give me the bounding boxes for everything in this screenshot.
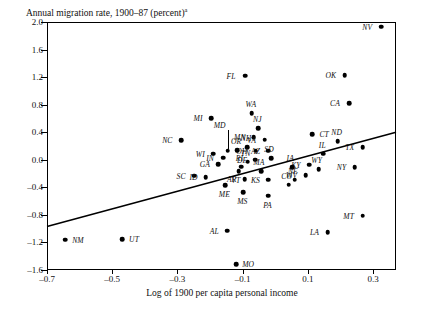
data-point-label-nh: NH	[241, 134, 252, 143]
data-point-wy	[316, 167, 321, 172]
data-point-id	[203, 175, 208, 180]
data-point-vt	[236, 169, 241, 174]
plot-area	[47, 22, 396, 270]
data-point-label-ut: UT	[129, 235, 139, 244]
data-point-fl	[243, 73, 248, 78]
x-axis-tick-label: –0.7	[27, 274, 67, 284]
data-point-label-ny: NY	[337, 163, 347, 172]
data-point-pa	[266, 193, 271, 198]
data-point-ms	[241, 190, 246, 195]
y-axis-tick-label: –1.2	[9, 237, 43, 247]
data-point-ut	[120, 237, 125, 242]
data-point-ct	[310, 132, 315, 137]
data-point-label-az: AZ	[251, 146, 260, 155]
x-axis-tick-label: –0.1	[223, 274, 263, 284]
data-point-nv	[379, 25, 384, 30]
chart-title-text: Annual migration rate, 1900–87 (percent)	[26, 8, 185, 18]
data-point-ca	[347, 101, 352, 106]
data-point-label-ks: KS	[251, 175, 260, 184]
x-axis-tick-mark	[243, 269, 244, 274]
data-point-in	[221, 155, 226, 160]
x-axis-tick-mark	[177, 269, 178, 274]
data-point-label-ok: OK	[325, 71, 336, 80]
data-point-nc	[179, 138, 184, 143]
y-axis-tick-label: –0.8	[9, 210, 43, 220]
y-axis-tick-label: 0.0	[9, 155, 43, 165]
data-point-label-sd: SD	[264, 145, 273, 154]
data-point-label-fl: FL	[226, 71, 235, 80]
data-point-label-me: ME	[219, 190, 230, 199]
data-point-tx	[360, 145, 365, 150]
x-axis-tick-label: –0.5	[92, 274, 132, 284]
data-point-label-nv: NV	[362, 22, 372, 31]
data-point-label-ct: CT	[319, 130, 329, 139]
data-point-label-sc: SC	[177, 171, 186, 180]
data-point-label-ca: CA	[330, 99, 340, 108]
data-point-ga	[216, 162, 221, 167]
data-point-ny	[352, 165, 357, 170]
data-point-ok	[342, 73, 347, 78]
y-axis-tick-label: 1.2	[9, 72, 43, 82]
data-point-label-wi: WI	[196, 149, 205, 158]
x-axis-tick-mark	[47, 269, 48, 274]
y-axis-tick-mark	[41, 77, 47, 78]
data-point-ri	[239, 164, 244, 169]
data-point-label-nj: NJ	[253, 115, 262, 124]
x-axis-tick-mark	[112, 269, 113, 274]
x-axis-tick-label: 0.3	[353, 274, 393, 284]
data-point-la	[325, 230, 330, 235]
data-point-or	[235, 148, 240, 153]
data-point-nj	[256, 126, 261, 131]
data-point-mi	[209, 116, 214, 121]
y-axis-tick-mark	[41, 215, 47, 216]
data-point-label-or: OR	[231, 137, 241, 146]
data-point-label-la: LA	[310, 228, 319, 237]
data-point-label-id: ID	[189, 173, 197, 182]
label-leader-line-md	[228, 130, 229, 149]
data-point-label-wy: WY	[311, 156, 322, 165]
data-point-label-co: CO	[281, 171, 292, 180]
data-point-label-tx: TX	[345, 143, 354, 152]
data-point-md	[225, 149, 230, 154]
y-axis-tick-label: 1.6	[9, 45, 43, 55]
data-point-ks	[266, 177, 271, 182]
data-point-mt	[360, 213, 365, 218]
data-point-label-ia: IA	[287, 154, 294, 163]
data-point-al	[225, 228, 230, 233]
data-point-label-ma: MA	[253, 158, 264, 167]
data-point-me	[223, 183, 228, 188]
data-point-label-ga: GA	[200, 159, 210, 168]
x-axis-tick-label: –0.3	[157, 274, 197, 284]
chart-title-footnote-marker: a	[185, 6, 188, 13]
y-axis-tick-label: 0.8	[9, 100, 43, 110]
data-point-label-wa: WA	[246, 99, 257, 108]
y-axis-tick-mark	[41, 50, 47, 51]
data-point-label-al: AL	[210, 226, 219, 235]
data-point-wv	[303, 173, 308, 178]
data-point-label-mo: MO	[242, 260, 254, 269]
chart-title: Annual migration rate, 1900–87 (percent)…	[26, 6, 187, 18]
y-axis-tick-label: 2.0	[9, 17, 43, 27]
data-point-label-ms: MS	[237, 197, 247, 206]
data-point-label-nd: ND	[331, 128, 342, 137]
migration-rate-scatter-chart: Annual migration rate, 1900–87 (percent)…	[0, 0, 444, 317]
y-axis-tick-mark	[41, 187, 47, 188]
data-point-label-nm: NM	[72, 235, 84, 244]
data-point-mo	[234, 262, 239, 267]
x-axis-tick-mark	[373, 269, 374, 274]
data-point-label-nc: NC	[162, 136, 172, 145]
y-axis-tick-mark	[41, 242, 47, 243]
y-axis-tick-label: 0.4	[9, 127, 43, 137]
data-point-ne	[293, 177, 298, 182]
data-point-label-ri: RI	[236, 153, 243, 162]
data-point-label-il: IL	[319, 140, 326, 149]
data-point-nd	[335, 139, 340, 144]
y-axis-tick-mark	[41, 160, 47, 161]
data-point-label-md: MD	[214, 120, 226, 129]
data-point-sd	[269, 156, 274, 161]
data-point-label-mt: MT	[343, 211, 354, 220]
data-point-ma	[259, 169, 264, 174]
y-axis-tick-label: –0.4	[9, 182, 43, 192]
data-point-tn	[245, 160, 250, 165]
x-axis-tick-label: 0.1	[288, 274, 328, 284]
